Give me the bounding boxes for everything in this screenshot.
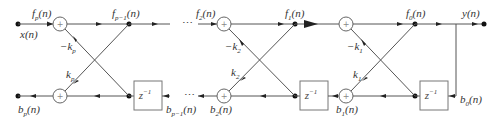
delay-box-2: z−1 xyxy=(300,81,328,110)
arrow-icon xyxy=(332,94,338,98)
arrow-icon xyxy=(380,94,386,98)
label-b-p: bp(n) xyxy=(18,103,40,118)
svg-text:+: + xyxy=(221,92,228,101)
arrow-icon xyxy=(94,94,100,98)
arrow-icon xyxy=(304,20,318,28)
output-y-node xyxy=(482,22,487,27)
stage-2: + + z−1 f2(n) f1(n) −k2 k2 b2(n) xyxy=(196,7,339,118)
label-k-2: k2 xyxy=(231,66,240,81)
arrow-icon xyxy=(397,22,403,26)
svg-text:+: + xyxy=(343,20,350,29)
arrow-icon xyxy=(96,22,102,26)
label-f-0: f0(n) xyxy=(406,7,426,22)
arrow-icon xyxy=(260,94,266,98)
arrow-icon xyxy=(278,22,284,26)
arrow-icon xyxy=(198,94,204,98)
label-f-2: f2(n) xyxy=(196,7,216,22)
label-b-0: b0(n) xyxy=(460,93,482,108)
delay-box-1: z−1 xyxy=(420,81,448,110)
adder-bottom-2: + xyxy=(217,89,231,103)
label-k-1: k1 xyxy=(353,68,361,83)
adder-top-p: + xyxy=(53,17,67,31)
adder-top-2: + xyxy=(217,17,231,31)
adder-top-1: + xyxy=(339,17,353,31)
svg-text:+: + xyxy=(57,92,64,101)
arrow-icon xyxy=(47,22,53,27)
arrow-icon xyxy=(449,94,455,98)
ellipsis-top: ⋯ xyxy=(182,17,193,29)
ellipsis-bottom: ⋯ xyxy=(184,89,195,101)
label-f-p: fp(n) xyxy=(32,7,52,22)
arrow-icon xyxy=(152,22,158,26)
adder-bottom-p: + xyxy=(53,89,67,103)
stage-1: + + z−1 f0(n) y(n) −k1 k xyxy=(332,7,487,118)
arrow-icon xyxy=(211,22,217,26)
lattice-filter-diagram: + + z−1 fp(n) x(n) fp−1( xyxy=(0,0,497,124)
adder-bottom-1: + xyxy=(339,89,353,103)
label-x-n: x(n) xyxy=(19,28,38,41)
svg-text:+: + xyxy=(57,20,64,29)
label-minus-k-2: −k2 xyxy=(225,40,241,55)
label-f-1: f1(n) xyxy=(285,7,305,22)
label-minus-k-p: −kp xyxy=(60,40,76,55)
label-y-n: y(n) xyxy=(461,7,480,20)
arrow-icon xyxy=(436,22,442,26)
label-minus-k-1: −k1 xyxy=(347,40,363,55)
label-b-2: b2(n) xyxy=(210,103,232,118)
label-f-p-1: fp−1(n) xyxy=(112,7,140,22)
label-b-p-1: bp−1(n) xyxy=(166,103,196,118)
label-b-1: b1(n) xyxy=(336,103,358,118)
svg-text:+: + xyxy=(343,92,350,101)
arrow-icon xyxy=(163,94,169,98)
svg-text:+: + xyxy=(221,20,228,29)
stage-p: + + z−1 fp(n) x(n) fp−1( xyxy=(16,7,197,118)
label-k-p: kp xyxy=(66,68,75,83)
arrow-icon xyxy=(30,94,36,98)
delay-box-p: z−1 xyxy=(134,81,162,110)
arrow-icon xyxy=(472,22,478,26)
arrow-icon xyxy=(361,39,366,46)
arrow-icon xyxy=(239,39,244,46)
